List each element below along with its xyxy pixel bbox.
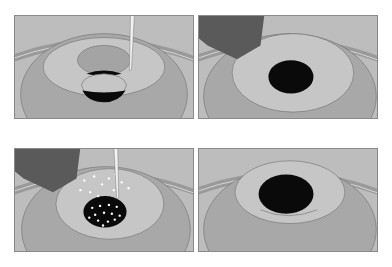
panel-bottom-left [14,148,194,252]
illustration-2 [199,16,377,118]
panel-top-right [198,15,378,119]
panel-top-left [14,15,194,119]
illustration-1 [15,16,193,118]
speckled-dark-center [83,196,126,227]
illustration-3 [15,149,193,251]
dark-center [268,60,313,93]
illustration-4 [199,149,377,251]
dark-center [259,175,314,214]
panel-bottom-right [198,148,378,252]
